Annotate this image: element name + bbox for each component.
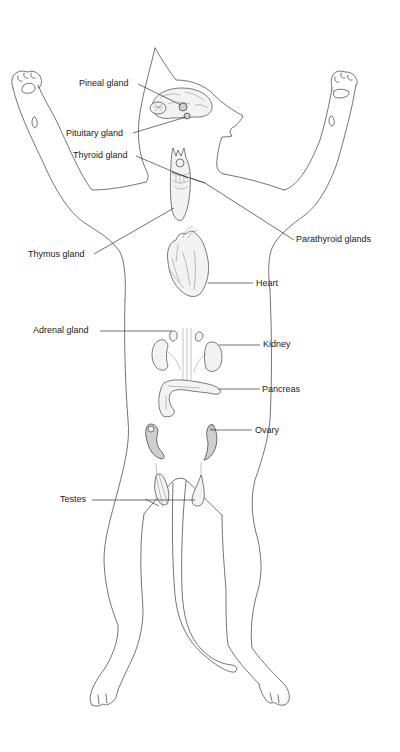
label-ovary: Ovary <box>255 425 279 436</box>
brain-illustration <box>150 88 212 119</box>
label-testes: Testes <box>60 494 86 505</box>
leader-parathyroid-b <box>205 183 294 240</box>
leader-pituitary <box>133 117 186 133</box>
pancreas-illustration <box>159 380 221 417</box>
label-pineal-gland: Pineal gland <box>79 78 129 89</box>
cat-body-outline <box>12 48 357 706</box>
label-heart: Heart <box>256 278 278 289</box>
ovaries-illustration <box>146 424 217 460</box>
label-kidney: Kidney <box>263 339 291 350</box>
label-parathyroid-glands: Parathyroid glands <box>296 234 371 245</box>
label-thyroid-gland: Thyroid gland <box>73 150 128 161</box>
leader-parathyroid-c <box>190 178 205 183</box>
heart-illustration <box>167 226 208 297</box>
thyroid-trachea-illustration <box>170 148 190 221</box>
label-thymus-gland: Thymus gland <box>28 249 85 260</box>
label-adrenal-gland: Adrenal gland <box>33 325 89 336</box>
label-pancreas: Pancreas <box>262 384 300 395</box>
leader-thymus <box>94 208 174 254</box>
cat-endocrine-diagram <box>0 0 400 752</box>
kidneys-adrenals-illustration <box>152 328 222 380</box>
label-pituitary-gland: Pituitary gland <box>66 128 123 139</box>
